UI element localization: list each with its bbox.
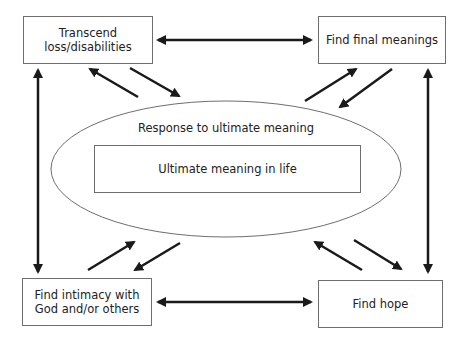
arrow-center-to-final: [305, 69, 356, 101]
node-hope-label: Find hope: [353, 297, 409, 311]
arrow-intimacy-to-center: [88, 242, 134, 270]
arrow-transcend-to-center: [130, 68, 179, 96]
node-transcend-line2: loss/disabilities: [44, 40, 131, 54]
arrow-center-to-hope: [354, 240, 401, 269]
arrow-hope-to-center: [315, 242, 362, 270]
ultimate-meaning-label: Ultimate meaning in life: [95, 162, 360, 176]
node-final-meanings: Find final meanings: [318, 16, 446, 64]
arrow-center-to-intimacy: [135, 243, 180, 270]
node-transcend-line1: Transcend: [44, 26, 131, 40]
node-final-meanings-label: Find final meanings: [326, 33, 438, 47]
node-transcend: Transcend loss/disabilities: [23, 16, 153, 64]
node-intimacy-line1: Find intimacy with: [35, 288, 140, 302]
node-intimacy-line2: God and/or others: [35, 302, 140, 316]
arrow-center-to-transcend: [90, 69, 138, 97]
response-label: Response to ultimate meaning: [120, 121, 332, 135]
node-intimacy: Find intimacy with God and/or others: [22, 278, 152, 326]
node-hope: Find hope: [318, 280, 443, 328]
